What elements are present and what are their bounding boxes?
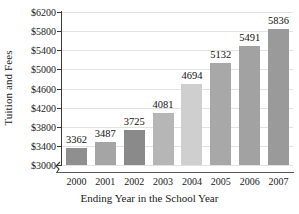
bar-value-label: 4694	[172, 70, 212, 81]
y-tick-label: $5000	[14, 64, 56, 75]
bar	[181, 84, 202, 165]
bar-value-label: 3725	[114, 116, 154, 127]
bar-value-label: 5132	[201, 49, 241, 60]
y-tick-label: $3000	[14, 160, 56, 171]
bar-value-label: 4081	[143, 99, 183, 110]
y-tick-label: $4600	[14, 83, 56, 94]
bar-value-label: 5491	[230, 32, 270, 43]
bar-value-label: 5836	[259, 15, 299, 26]
gridline	[62, 165, 293, 166]
y-axis-title-text: Tuition and Fees	[2, 50, 14, 125]
bar	[210, 63, 231, 165]
bar	[124, 130, 145, 165]
bar	[66, 148, 87, 165]
x-axis-title: Ending Year in the School Year	[0, 192, 299, 204]
y-tick-label: $4200	[14, 102, 56, 113]
y-tick-label: $3800	[14, 121, 56, 132]
y-tick-label: $5800	[14, 26, 56, 37]
bar	[95, 142, 116, 165]
bar-value-label: 3487	[85, 128, 125, 139]
bar	[239, 46, 260, 165]
bar	[268, 29, 289, 165]
y-tick-label: $3400	[14, 140, 56, 151]
x-tick-label: 2007	[259, 176, 299, 187]
x-axis-spine	[56, 172, 294, 173]
y-tick-label: $5400	[14, 45, 56, 56]
y-tick-label: $6200	[14, 7, 56, 18]
plot-area: 33623487372540814694513254915836	[62, 12, 293, 165]
tuition-and-fees-bar-chart: Tuition and Fees $3000$3400$3800$4200$46…	[0, 0, 299, 214]
bar	[153, 113, 174, 165]
